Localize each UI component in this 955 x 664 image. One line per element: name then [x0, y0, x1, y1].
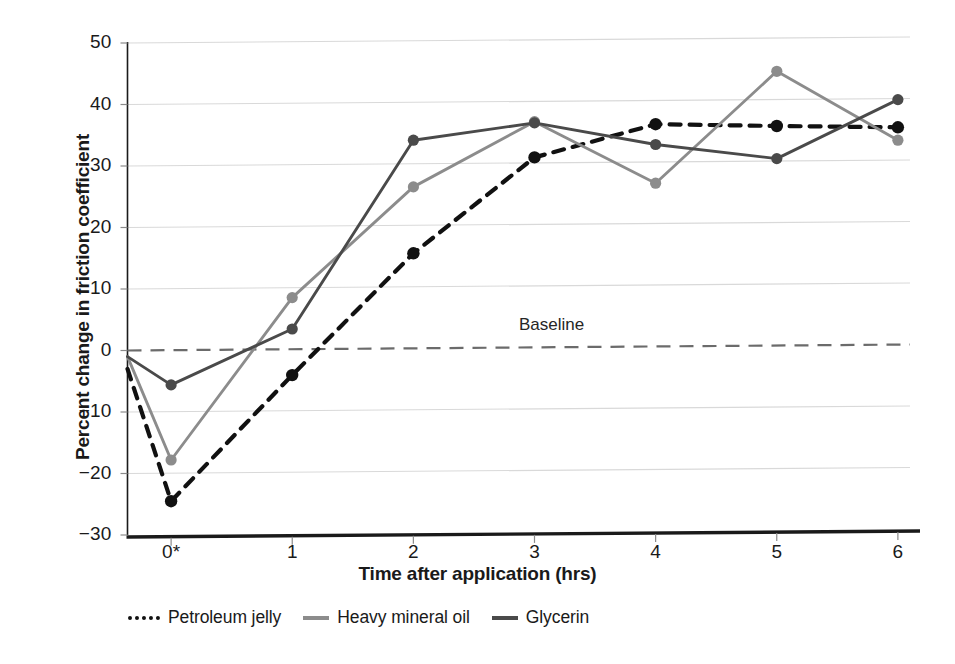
chart-figure: 50403020100−10−20−30 0*123456 Percent ch… — [0, 0, 955, 664]
chart-legend: Petroleum jellyHeavy mineral oilGlycerin — [128, 607, 589, 628]
data-point — [287, 323, 298, 334]
data-point — [892, 121, 904, 133]
solid-line-icon — [303, 616, 329, 620]
y-tick-label: −20 — [66, 462, 112, 484]
y-tick-label: 40 — [66, 93, 112, 115]
series-line-heavy-mineral-oil — [128, 71, 898, 460]
data-point — [528, 151, 540, 163]
legend-item-label: Glycerin — [526, 607, 589, 628]
data-point — [408, 135, 419, 146]
data-point — [286, 369, 298, 381]
y-axis-title: Percent change in friction coefficient — [72, 134, 94, 460]
data-point — [407, 247, 419, 259]
gridlines — [128, 37, 911, 474]
gridline — [128, 160, 911, 166]
gridline — [128, 283, 911, 289]
axis-lines — [127, 42, 921, 537]
y-tick-label: 50 — [66, 31, 112, 53]
y-tick-label: −30 — [66, 523, 112, 545]
x-tick-label: 0* — [151, 541, 191, 563]
gridline — [128, 468, 911, 474]
x-axis-title: Time after application (hrs) — [0, 563, 955, 585]
data-point — [771, 66, 782, 77]
x-axis-line — [127, 531, 921, 537]
gridline — [128, 37, 911, 43]
gridline — [128, 406, 911, 412]
solid-line-icon — [492, 616, 518, 620]
legend-item-glycerin[interactable]: Glycerin — [492, 607, 589, 628]
gridline — [128, 99, 911, 105]
data-point — [166, 454, 177, 465]
data-point — [771, 120, 783, 132]
data-point — [529, 117, 540, 128]
x-tick-label: 1 — [272, 541, 312, 563]
data-point — [165, 495, 177, 507]
data-point — [892, 94, 903, 105]
x-tick-label: 6 — [878, 541, 918, 563]
series-markers — [165, 66, 904, 508]
data-point — [408, 181, 419, 192]
data-point — [166, 379, 177, 390]
series-line-petroleum-jelly — [128, 124, 898, 501]
data-point — [650, 178, 661, 189]
legend-item-label: Petroleum jelly — [168, 607, 281, 628]
dashed-line-icon — [128, 616, 160, 620]
gridline — [128, 222, 911, 228]
series-line-glycerin — [128, 100, 898, 385]
x-tick-label: 2 — [393, 541, 433, 563]
legend-item-heavy-mineral-oil[interactable]: Heavy mineral oil — [303, 607, 470, 628]
x-tick-label: 3 — [514, 541, 554, 563]
data-point — [649, 118, 661, 130]
legend-item-petroleum-jelly[interactable]: Petroleum jelly — [128, 607, 281, 628]
baseline-annotation-label: Baseline — [519, 315, 584, 335]
data-point — [771, 153, 782, 164]
data-point — [650, 139, 661, 150]
legend-item-label: Heavy mineral oil — [337, 607, 470, 628]
data-point — [892, 135, 903, 146]
x-tick-label: 4 — [636, 541, 676, 563]
x-tick-label: 5 — [757, 541, 797, 563]
data-point — [287, 292, 298, 303]
